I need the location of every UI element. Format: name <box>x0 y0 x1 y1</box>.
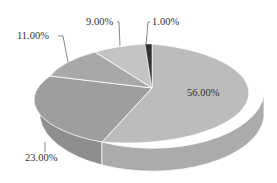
label-9: 9.00% <box>86 16 113 27</box>
label-23: 23.00% <box>25 152 58 163</box>
label-1: 1.00% <box>152 16 179 27</box>
label-11: 11.00% <box>17 30 49 41</box>
pie-chart: 56.00% 23.00% 11.00% 9.00% 1.00% <box>0 0 277 183</box>
label-56: 56.00% <box>187 87 220 98</box>
